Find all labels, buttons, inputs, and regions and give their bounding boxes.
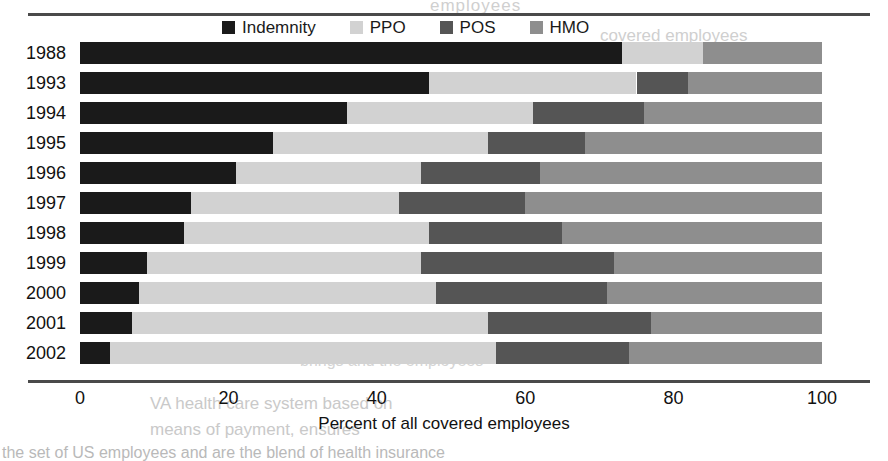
year-label: 2000 [26, 282, 66, 304]
bar-segment-pos [436, 282, 607, 304]
bar-segment-indemnity [80, 72, 429, 94]
bar-segment-pos [421, 252, 614, 274]
x-tick-label: 80 [664, 388, 684, 409]
bar-row [80, 162, 822, 184]
bar-segment-ppo [139, 282, 436, 304]
bar-segment-hmo [607, 282, 822, 304]
bar-segment-hmo [585, 132, 822, 154]
year-label: 1988 [26, 42, 66, 64]
legend-swatch-icon [530, 21, 543, 34]
x-axis-ticks: 020406080100 [80, 388, 822, 412]
stacked-bar-chart: employees covered employees brings and t… [0, 0, 888, 461]
legend-swatch-icon [222, 21, 235, 34]
bar-segment-pos [488, 132, 584, 154]
bar-segment-hmo [562, 222, 822, 244]
legend-item-indemnity: Indemnity [222, 19, 316, 36]
bar-segment-hmo [651, 312, 822, 334]
bar-segment-hmo [688, 72, 822, 94]
bar-segment-hmo [703, 42, 822, 64]
bar-segment-ppo [622, 42, 704, 64]
bar-row [80, 72, 822, 94]
plot-area [80, 40, 822, 370]
legend-item-pos: POS [440, 19, 496, 36]
year-label: 2002 [26, 342, 66, 364]
x-tick-label: 20 [218, 388, 238, 409]
bar-segment-indemnity [80, 192, 191, 214]
bar-segment-ppo [429, 72, 637, 94]
bar-segment-hmo [644, 102, 822, 124]
bar-segment-indemnity [80, 42, 622, 64]
year-label: 1998 [26, 222, 66, 244]
x-axis-title: Percent of all covered employees [0, 414, 888, 434]
legend-swatch-icon [440, 21, 453, 34]
legend-label: PPO [370, 19, 406, 36]
year-axis-labels: 1988199319941995199619971998199920002001… [0, 40, 74, 370]
chart-bottom-rule [28, 380, 870, 383]
background-bleed-text-bottom: the set of US employees and are the blen… [2, 444, 445, 461]
bar-row [80, 42, 822, 64]
x-tick-label: 100 [807, 388, 837, 409]
bar-segment-ppo [236, 162, 422, 184]
bar-segment-indemnity [80, 312, 132, 334]
bar-segment-ppo [110, 342, 496, 364]
year-label: 1993 [26, 72, 66, 94]
bar-segment-ppo [273, 132, 488, 154]
bar-row [80, 312, 822, 334]
legend-label: POS [460, 19, 496, 36]
bar-row [80, 342, 822, 364]
bar-row [80, 252, 822, 274]
bar-segment-indemnity [80, 342, 110, 364]
bar-row [80, 102, 822, 124]
bar-segment-pos [488, 312, 651, 334]
legend-item-hmo: HMO [530, 19, 590, 36]
bar-segment-hmo [525, 192, 822, 214]
bar-segment-indemnity [80, 282, 139, 304]
bar-segment-hmo [540, 162, 822, 184]
bar-segment-ppo [147, 252, 422, 274]
bar-segment-ppo [191, 192, 399, 214]
year-label: 1996 [26, 162, 66, 184]
bar-segment-indemnity [80, 252, 147, 274]
chart-legend: IndemnityPPOPOSHMO [222, 19, 589, 36]
bar-row [80, 282, 822, 304]
year-label: 1997 [26, 192, 66, 214]
x-tick-label: 0 [75, 388, 85, 409]
legend-label: HMO [550, 19, 590, 36]
x-tick-label: 40 [367, 388, 387, 409]
legend-swatch-icon [350, 21, 363, 34]
bar-segment-pos [429, 222, 563, 244]
bar-row [80, 222, 822, 244]
bar-segment-hmo [629, 342, 822, 364]
bar-segment-pos [533, 102, 644, 124]
bar-segment-indemnity [80, 102, 347, 124]
legend-label: Indemnity [242, 19, 316, 36]
bar-segment-pos [399, 192, 525, 214]
year-label: 1994 [26, 102, 66, 124]
bar-segment-pos [637, 72, 689, 94]
year-label: 1999 [26, 252, 66, 274]
bar-segment-indemnity [80, 222, 184, 244]
bar-segment-ppo [132, 312, 488, 334]
x-tick-label: 60 [515, 388, 535, 409]
legend-item-ppo: PPO [350, 19, 406, 36]
year-label: 1995 [26, 132, 66, 154]
bar-segment-indemnity [80, 132, 273, 154]
bar-segment-pos [496, 342, 630, 364]
bar-segment-indemnity [80, 162, 236, 184]
bar-segment-ppo [184, 222, 429, 244]
bar-segment-pos [421, 162, 540, 184]
chart-top-rule [28, 13, 870, 16]
year-label: 2001 [26, 312, 66, 334]
bar-segment-hmo [614, 252, 822, 274]
bar-row [80, 192, 822, 214]
bar-segment-ppo [347, 102, 533, 124]
bar-row [80, 132, 822, 154]
